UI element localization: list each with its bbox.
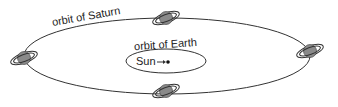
saturn-left-icon: [9, 49, 39, 68]
sun-label: Sun: [136, 56, 156, 67]
earth-dot: [166, 60, 170, 64]
saturn-right-icon: [295, 42, 325, 61]
arrowhead-icon: [163, 60, 166, 64]
saturn-orbit: [24, 18, 310, 94]
saturn-top-icon: [151, 9, 181, 28]
saturn-bottom-icon: [151, 82, 181, 101]
